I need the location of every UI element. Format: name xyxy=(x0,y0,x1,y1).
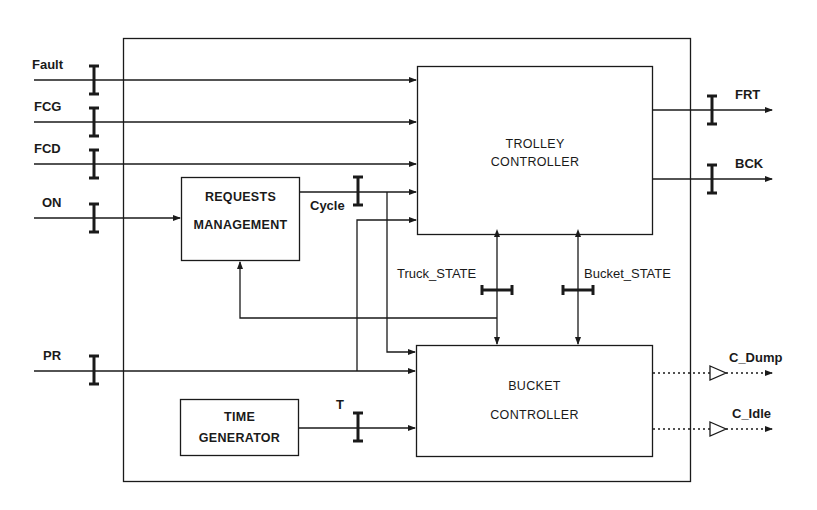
input-label-fcd: FCD xyxy=(34,142,61,155)
requests-management-title-2: MANAGEMENT xyxy=(181,219,300,232)
output-label-c-dump: C_Dump xyxy=(729,351,782,364)
time-generator-title-2: GENERATOR xyxy=(180,432,299,445)
output-label-bck: BCK xyxy=(735,157,763,170)
c-idle-buffer-icon xyxy=(710,422,726,436)
diagram-svg xyxy=(0,0,817,510)
signal-label-truck-state: Truck_STATE xyxy=(397,267,476,280)
input-label-pr: PR xyxy=(43,349,61,362)
cycle-latch-icon xyxy=(353,177,363,205)
signal-label-t: T xyxy=(336,398,344,411)
output-label-frt: FRT xyxy=(735,88,760,101)
bucket-controller-title-2: CONTROLLER xyxy=(416,409,653,422)
signal-label-cycle: Cycle xyxy=(310,199,345,212)
requests-management-title-1: REQUESTS xyxy=(181,191,300,204)
bucket-controller-title-1: BUCKET xyxy=(416,380,653,393)
input-label-fcg: FCG xyxy=(34,100,61,113)
input-label-fault: Fault xyxy=(32,58,63,71)
time-generator-block xyxy=(181,400,299,456)
time-generator-title-1: TIME xyxy=(180,411,299,424)
pr-latch-icon xyxy=(89,356,99,384)
block-diagram: Fault FCG FCD ON PR FRT BCK C_Dump C_Idl… xyxy=(0,0,817,510)
t-latch-icon xyxy=(353,413,363,441)
signal-label-bucket-state: Bucket_STATE xyxy=(584,267,671,280)
output-label-c-idle: C_Idle xyxy=(732,407,771,420)
bucket-controller-block xyxy=(417,346,653,457)
input-label-on: ON xyxy=(42,196,62,209)
trolley-controller-title-1: TROLLEY xyxy=(417,138,653,151)
trolley-controller-title-2: CONTROLLER xyxy=(417,156,653,169)
c-dump-buffer-icon xyxy=(710,366,726,380)
